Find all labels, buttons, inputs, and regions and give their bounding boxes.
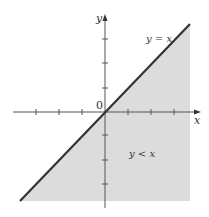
- region-label: y < x: [128, 148, 155, 159]
- y-axis-label: y: [95, 12, 103, 25]
- inequality-graph: y x 0 y = x y < x: [0, 0, 209, 217]
- y-axis-arrow-icon: [103, 14, 108, 21]
- graph-canvas: y x 0 y = x y < x: [0, 0, 209, 217]
- line-label: y = x: [145, 33, 172, 44]
- x-axis-label: x: [194, 114, 201, 127]
- origin-label: 0: [96, 99, 103, 112]
